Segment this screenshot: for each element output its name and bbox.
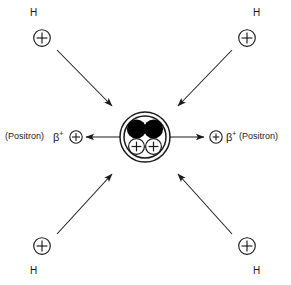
arrow-from-bottom-left <box>57 174 112 234</box>
positron-right-charge-icon <box>210 131 222 143</box>
proton-right <box>146 139 162 155</box>
positron-right-symbol: β+ <box>226 130 236 143</box>
h-label-bottom-left: H <box>30 266 37 276</box>
positron-left-symbol: β+ <box>53 130 63 143</box>
diagram-canvas <box>0 0 291 285</box>
arrow-from-top-right <box>178 50 232 106</box>
arrow-from-bottom-right <box>178 174 232 234</box>
neutron-right <box>144 119 163 138</box>
positron-left-name: (Positron) <box>5 132 44 141</box>
arrow-from-top-left <box>57 50 112 106</box>
h-label-top-left: H <box>30 8 37 18</box>
beta-superscript-right: + <box>232 130 236 137</box>
h-bottom-right-proton <box>239 238 256 255</box>
h-top-left-proton <box>34 30 51 47</box>
neutron-left <box>127 119 146 138</box>
h-top-right-proton <box>239 30 256 47</box>
beta-superscript-left: + <box>59 130 63 137</box>
h-label-bottom-right: H <box>253 266 260 276</box>
h-bottom-left-proton <box>34 238 51 255</box>
fusion-diagram: H H H H (Positron) β+ β+ (Positron) <box>0 0 291 285</box>
proton-left <box>129 139 145 155</box>
positron-right-name: (Positron) <box>239 132 278 141</box>
helium-nucleus <box>120 112 170 162</box>
positron-left-charge-icon <box>70 131 82 143</box>
h-label-top-right: H <box>253 8 260 18</box>
